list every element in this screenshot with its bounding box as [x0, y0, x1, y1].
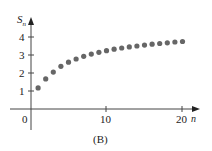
- x-axis-label: n: [191, 113, 196, 124]
- data-point: [89, 52, 94, 57]
- chart-canvas: [0, 0, 212, 151]
- data-point: [127, 44, 132, 49]
- data-point: [157, 41, 162, 46]
- data-point: [165, 40, 170, 45]
- data-point: [96, 50, 101, 55]
- data-point: [112, 47, 117, 52]
- y-tick-label-2: 2: [19, 68, 25, 79]
- data-point: [142, 43, 147, 48]
- data-point: [180, 39, 185, 44]
- y-tick-label-1: 1: [19, 86, 25, 97]
- x-axis-arrow-icon: [192, 106, 200, 112]
- data-point: [66, 60, 71, 65]
- data-point: [58, 64, 63, 69]
- data-point: [74, 56, 79, 61]
- y-axis-label: Sn: [17, 14, 26, 30]
- y-tick-label-3: 3: [19, 50, 25, 61]
- y-axis-arrow-icon: [28, 17, 34, 25]
- y-axis-label-subscript: n: [23, 20, 27, 28]
- origin-label: 0: [22, 114, 28, 125]
- data-point: [104, 48, 109, 53]
- chart-caption: (B): [93, 134, 108, 145]
- data-points: [36, 39, 186, 91]
- data-point: [51, 70, 56, 75]
- data-point: [172, 39, 177, 44]
- data-point: [36, 85, 41, 90]
- data-point: [134, 43, 139, 48]
- data-point: [150, 42, 155, 47]
- data-point: [43, 76, 48, 81]
- data-point: [119, 45, 124, 50]
- data-point: [81, 54, 86, 59]
- x-tick-label-10: 10: [100, 114, 111, 125]
- x-tick-label-20: 20: [176, 114, 187, 125]
- y-tick-label-4: 4: [19, 32, 25, 43]
